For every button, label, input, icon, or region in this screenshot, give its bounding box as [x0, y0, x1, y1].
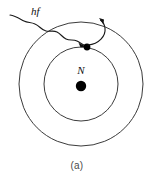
photon-label: hf	[31, 5, 42, 17]
nucleus-label: N	[76, 64, 85, 76]
atom-diagram: N hf	[0, 0, 154, 182]
photon-wave-path	[10, 15, 84, 45]
nucleus-dot	[76, 81, 86, 91]
ejection-arrowhead-icon	[99, 18, 104, 25]
figure-container: N hf (a)	[0, 0, 154, 182]
figure-caption: (a)	[0, 160, 154, 171]
